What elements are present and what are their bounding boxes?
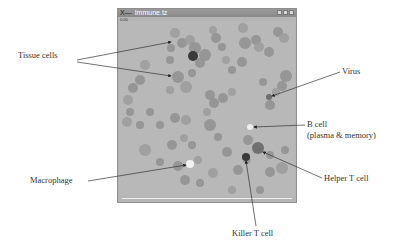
label-virus: Virus: [342, 66, 360, 77]
annotation-arrows: [0, 0, 407, 250]
label-tissue-cells: Tissue cells: [18, 50, 58, 61]
arrow-helper-t: [263, 152, 322, 178]
arrow-killer-t: [246, 161, 256, 226]
arrow-virus: [272, 72, 340, 96]
arrow-tissue-cell-1: [77, 42, 171, 60]
label-macrophage: Macrophage: [30, 175, 72, 186]
arrow-b-cell: [254, 125, 305, 127]
arrow-macrophage: [88, 165, 186, 181]
arrow-tissue-cell-2: [77, 62, 171, 76]
label-b-cell-subtitle: (plasma & memory): [307, 130, 376, 141]
label-killer-t-cell: Killer T cell: [232, 228, 273, 239]
label-b-cell: B cell: [307, 119, 327, 130]
label-helper-t-cell: Helper T cell: [324, 173, 369, 184]
